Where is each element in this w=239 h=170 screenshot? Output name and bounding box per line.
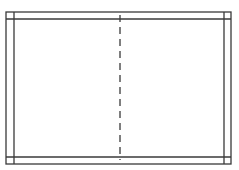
- outer-border: [6, 12, 231, 164]
- panel-diagram: [0, 0, 239, 170]
